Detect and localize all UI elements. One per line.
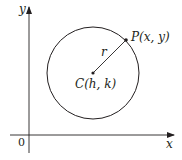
point-p bbox=[124, 38, 128, 42]
circle-diagram: y 0 x P(x, y) r C(h, k) bbox=[0, 0, 182, 160]
y-axis-label: y bbox=[18, 2, 26, 16]
x-axis-label: x bbox=[166, 137, 173, 151]
radius-label: r bbox=[101, 45, 108, 59]
point-p-label: P(x, y) bbox=[130, 30, 170, 44]
center-point bbox=[91, 71, 94, 74]
center-label: C(h, k) bbox=[75, 77, 116, 91]
radius-line bbox=[93, 40, 126, 73]
origin-label: 0 bbox=[18, 136, 25, 149]
